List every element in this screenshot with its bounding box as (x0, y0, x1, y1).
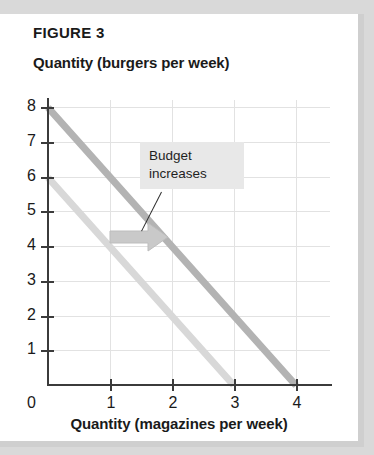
x-ticklabel-3: 3 (223, 394, 247, 412)
right-arrow-icon (108, 222, 170, 252)
x-axis-line (47, 384, 332, 386)
y-tick-1 (41, 350, 54, 352)
y-ticklabel-4: 4 (14, 236, 36, 254)
y-ticklabel-7: 7 (14, 132, 36, 150)
y-ticklabel-1: 1 (14, 340, 36, 358)
y-tick-5 (41, 211, 54, 213)
gridline-h-1 (48, 350, 330, 351)
y-ticklabel-8: 8 (14, 97, 36, 115)
y-ticklabel-0: 0 (14, 394, 36, 412)
x-ticklabel-1: 1 (99, 394, 123, 412)
plot-area: Budget increases 8 7 6 5 4 3 (0, 0, 358, 427)
y-ticklabel-6: 6 (14, 167, 36, 185)
x-tick-1 (110, 379, 112, 391)
x-tick-2 (172, 379, 174, 391)
y-tick-8 (41, 107, 54, 109)
gridline-h-3 (48, 281, 330, 282)
y-tick-3 (41, 281, 54, 283)
gridline-v-4 (296, 100, 297, 385)
x-axis-title: Quantity (magazines per week) (0, 415, 358, 432)
x-tick-3 (234, 379, 236, 391)
annotation-line-2: increases (149, 165, 235, 183)
gridline-h-4 (48, 246, 330, 247)
page-edge-right (358, 14, 364, 441)
x-ticklabel-4: 4 (285, 394, 309, 412)
gridline-h-5 (48, 211, 330, 212)
gridline-h-2 (48, 316, 330, 317)
y-tick-2 (41, 316, 54, 318)
annotation-line-1: Budget (149, 147, 235, 165)
gridline-h-8 (48, 107, 330, 108)
x-ticklabel-2: 2 (161, 394, 185, 412)
y-tick-7 (41, 142, 54, 144)
x-tick-4 (296, 379, 298, 391)
y-ticklabel-2: 2 (14, 306, 36, 324)
annotation-budget-increases: Budget increases (140, 142, 244, 189)
page-edge-bottom (0, 441, 364, 447)
y-tick-4 (41, 246, 54, 248)
y-ticklabel-5: 5 (14, 201, 36, 219)
figure-root: FIGURE 3 Quantity (burgers per week) (0, 0, 374, 455)
y-ticklabel-3: 3 (14, 271, 36, 289)
y-tick-6 (41, 177, 54, 179)
